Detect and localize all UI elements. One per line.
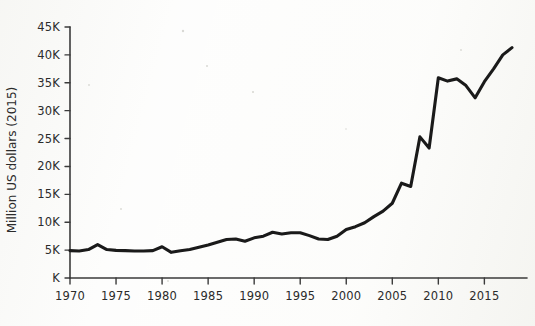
x-axis-tick-label: 1990 (239, 289, 269, 303)
x-axis-tick-labels: 1970197519801985199019952000200520102015 (55, 289, 499, 303)
y-axis-tick-label: 40K (37, 48, 60, 62)
x-axis-tick-label: 2000 (331, 289, 361, 303)
x-axis-tick-label: 1975 (101, 289, 131, 303)
y-axis-tick-label: 20K (37, 159, 60, 173)
x-axis-tick-label: 1995 (285, 289, 315, 303)
x-axis-tick-label: 2010 (423, 289, 453, 303)
y-axis-tick-label: 30K (37, 104, 60, 118)
scan-specks (88, 30, 462, 282)
data-series-line (70, 48, 512, 253)
chart-page: 45K40K35K30K25K20K15K10K5KK 197019751980… (0, 0, 535, 326)
x-axis-tick-label: 2005 (377, 289, 407, 303)
x-axis-tick-label: 1970 (55, 289, 85, 303)
y-axis-title: Million US dollars (2015) (5, 87, 19, 234)
line-chart: 45K40K35K30K25K20K15K10K5KK 197019751980… (0, 0, 535, 326)
y-axis-tick-label: K (52, 271, 60, 285)
y-axis-tick-labels: 45K40K35K30K25K20K15K10K5KK (37, 20, 60, 285)
x-axis-tick-label: 2015 (469, 289, 499, 303)
x-axis-ticks (70, 278, 484, 284)
y-axis-tick-label: 5K (45, 243, 61, 257)
y-axis-tick-label: 25K (37, 132, 60, 146)
x-axis-tick-label: 1985 (193, 289, 223, 303)
y-axis-tick-label: 45K (37, 20, 60, 34)
y-axis-tick-label: 10K (37, 215, 60, 229)
y-axis-tick-label: 15K (37, 187, 60, 201)
y-axis-tick-label: 35K (37, 76, 60, 90)
x-axis-tick-label: 1980 (147, 289, 177, 303)
